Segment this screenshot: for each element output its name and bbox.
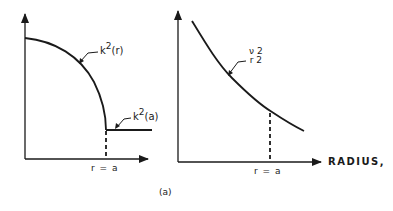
diagram-figure <box>0 0 393 211</box>
v2r2-denominator: r 2 <box>247 56 265 65</box>
k2r-curve <box>25 38 106 130</box>
v2r2-leader-arrow-icon <box>228 70 233 76</box>
figure-caption: (a) <box>159 188 172 197</box>
k2r-label-arg: (r) <box>112 45 124 56</box>
radius-axis-title: RADIUS, <box>328 157 385 167</box>
left-panel <box>25 14 152 159</box>
k2a-label-arg: (a) <box>145 111 159 122</box>
v2-over-r2-curve <box>192 21 304 131</box>
left-x-tick-label: r = a <box>91 164 118 173</box>
k2a-label: k2(a) <box>133 112 158 122</box>
right-panel <box>178 11 321 162</box>
v2-over-r2-label: ν 2 r 2 <box>247 47 265 65</box>
right-x-tick-label: r = a <box>254 167 281 176</box>
k2r-label: k2(r) <box>100 46 123 56</box>
